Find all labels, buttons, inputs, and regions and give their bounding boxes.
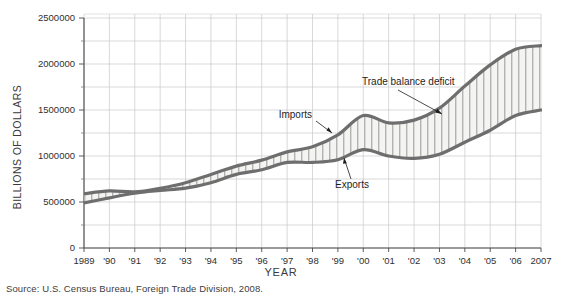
annotation-deficit-label: Trade balance deficit [362, 76, 455, 87]
x-tick-label: 1989 [73, 255, 94, 266]
x-tick-label: '04 [459, 255, 471, 266]
x-tick-label: '98 [306, 255, 318, 266]
x-axis-title: YEAR [0, 266, 562, 278]
x-tick-label: '90 [103, 255, 115, 266]
annotation-deficit-leader [398, 90, 442, 114]
y-axis-title: BILLIONS OF DOLLARS [8, 62, 26, 232]
y-tick-label: 0 [70, 242, 75, 253]
x-tick-label: '00 [357, 255, 369, 266]
x-tick-label: '05 [484, 255, 496, 266]
annotation-imports-arrowhead [327, 127, 333, 133]
x-tick-label: '01 [382, 255, 394, 266]
x-tick-label: '97 [281, 255, 293, 266]
annotation-exports: Exports [335, 158, 369, 190]
x-tick-label: 2007 [530, 255, 551, 266]
annotation-imports-label: Imports [279, 109, 312, 120]
x-tick-label: '06 [509, 255, 521, 266]
annotation-exports-label: Exports [335, 179, 369, 190]
y-tick-label: 1000000 [38, 150, 75, 161]
y-tick-label: 500000 [43, 196, 75, 207]
y-tick-label: 2000000 [38, 58, 75, 69]
x-tick-label: '91 [129, 255, 141, 266]
y-tick-labels: 05000001000000150000020000002500000 [38, 12, 75, 253]
annotation-imports: Imports [279, 109, 332, 133]
chart-canvas: 05000001000000150000020000002500000 1989… [0, 0, 562, 305]
x-tick-label: '92 [154, 255, 166, 266]
x-tick-label: '99 [332, 255, 344, 266]
x-tick-label: '94 [205, 255, 217, 266]
source-note: Source: U.S. Census Bureau, Foreign Trad… [6, 283, 263, 294]
x-tick-label: '02 [408, 255, 420, 266]
x-tick-label: '93 [179, 255, 191, 266]
x-tick-label: '96 [256, 255, 268, 266]
y-tick-label: 2500000 [38, 12, 75, 23]
trade-balance-figure: 05000001000000150000020000002500000 1989… [0, 0, 562, 305]
x-tick-labels: 1989'90'91'92'93'94'95'96'97'98'99'00'01… [73, 255, 551, 266]
y-tick-label: 1500000 [38, 104, 75, 115]
x-tick-label: '95 [230, 255, 242, 266]
x-tick-label: '03 [433, 255, 445, 266]
y-axis-title-text: BILLIONS OF DOLLARS [11, 85, 23, 209]
